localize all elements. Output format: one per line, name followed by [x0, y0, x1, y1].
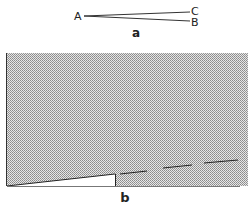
caption-a: a: [132, 26, 140, 40]
diagram: A C B a b: [0, 0, 252, 207]
point-label-a: A: [74, 10, 82, 23]
figure-b: b: [6, 53, 248, 205]
line-ac: [84, 12, 190, 16]
caption-b: b: [120, 190, 129, 205]
point-label-b: B: [191, 16, 199, 29]
figure-a: A C B a: [74, 5, 199, 40]
line-ab: [84, 16, 190, 21]
shaded-region: [6, 53, 248, 186]
